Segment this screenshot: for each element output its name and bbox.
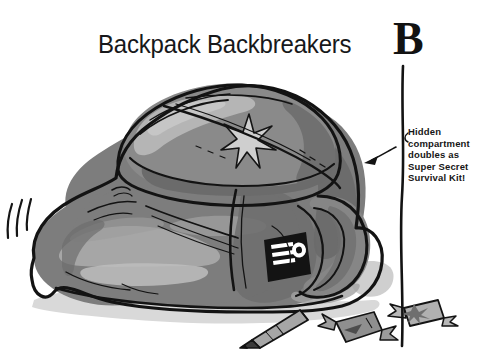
illustration-page: Backpack Backbreakers B Hidden compartme… — [0, 0, 489, 358]
logo-patch — [264, 232, 311, 282]
section-letter: B — [393, 16, 424, 62]
callout-note: Hidden compartment doubles as Super Secr… — [408, 126, 488, 184]
page-title: Backpack Backbreakers — [98, 28, 376, 60]
